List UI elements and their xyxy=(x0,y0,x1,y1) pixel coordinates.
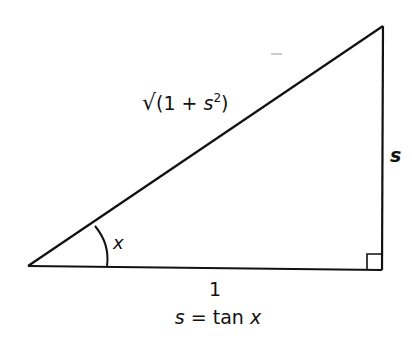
caption: s = tan x xyxy=(175,306,262,328)
adjacent-side xyxy=(28,266,382,270)
opposite-label: s xyxy=(390,144,401,166)
opposite-side xyxy=(382,26,383,270)
angle-label: x xyxy=(112,232,124,253)
adjacent-label: 1 xyxy=(209,278,221,300)
angle-arc xyxy=(95,226,108,266)
hypotenuse-label: √(1 + s2) xyxy=(142,90,229,115)
hypotenuse-side xyxy=(28,26,383,266)
triangle-diagram: √(1 + s2) s x 1 s = tan x xyxy=(0,0,412,350)
right-angle-marker xyxy=(367,254,382,269)
